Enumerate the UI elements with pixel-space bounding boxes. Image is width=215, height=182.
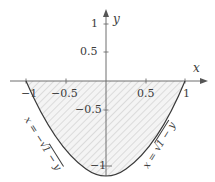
x-tick-label-neg1: −1 (21, 88, 37, 99)
x-tick-label-1: 1 (183, 88, 190, 99)
x-axis-name: x (193, 62, 200, 74)
y-axis-name: y (113, 13, 120, 25)
math-figure: −1 −0.5 0.5 1 1 0.5 −0.5 −1 y x x = −√1 … (0, 0, 215, 182)
y-tick-label-neg0-5: −0.5 (75, 104, 102, 115)
y-tick-label-neg1: −1 (90, 160, 106, 171)
y-tick-label-1: 1 (91, 18, 98, 29)
y-tick-label-0-5: 0.5 (80, 46, 98, 57)
x-tick-label-0-5: 0.5 (137, 88, 155, 99)
x-tick-label-neg0-5: −0.5 (51, 88, 78, 99)
